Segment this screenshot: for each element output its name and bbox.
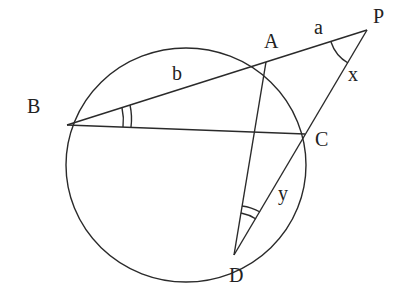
segment-label-b: b [172, 62, 182, 84]
angle-arc-D-outer [242, 206, 260, 212]
segment-label-a: a [314, 16, 323, 38]
chord-AD [234, 62, 266, 255]
point-label-P: P [373, 5, 384, 27]
angle-arc-P [331, 42, 348, 63]
chord-BC [67, 125, 305, 134]
point-label-D: D [229, 264, 243, 286]
geometry-diagram: P A B C D a b x y [0, 0, 400, 302]
point-label-C: C [315, 128, 328, 150]
angle-arc-B-inner [122, 108, 123, 127]
angle-label-x: x [348, 63, 358, 85]
angle-arc-D-inner [241, 213, 256, 219]
angle-label-y: y [278, 182, 288, 205]
circle [66, 48, 306, 282]
angle-arc-B-outer [130, 105, 132, 127]
point-label-A: A [264, 30, 279, 52]
point-label-B: B [27, 95, 40, 117]
secant-PB [67, 30, 367, 125]
